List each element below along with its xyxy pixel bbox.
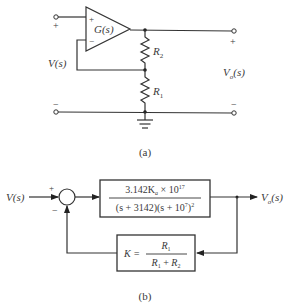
forward-numerator: 3.142Ka × 1017 bbox=[125, 184, 184, 196]
r1-label: R1 bbox=[152, 85, 164, 100]
summing-junction bbox=[59, 189, 75, 205]
caption-b: (b) bbox=[139, 290, 152, 303]
opamp-minus-sign: − bbox=[89, 36, 94, 46]
input-voltage-label: V(s) bbox=[48, 57, 67, 70]
figure-canvas: + + − G(s) + R2 R1 V(s) Vo(s) − − bbox=[0, 0, 294, 306]
bd-input-label: V(s) bbox=[6, 191, 25, 204]
output-plus-sign: + bbox=[230, 36, 236, 47]
sum-plus-sign: + bbox=[49, 183, 54, 193]
output-minus-sign: − bbox=[231, 99, 237, 110]
input-minus-sign: − bbox=[53, 99, 59, 110]
r2-label: R2 bbox=[152, 45, 164, 60]
output-plus-terminal bbox=[232, 29, 236, 33]
sum-minus-sign: − bbox=[52, 205, 58, 216]
output-minus-terminal bbox=[232, 111, 236, 115]
caption-a: (a) bbox=[139, 146, 152, 159]
forward-denominator: (s + 3142)(s + 107)2 bbox=[116, 202, 194, 214]
ground-icon bbox=[137, 112, 153, 128]
bd-output-label: Vo(s) bbox=[261, 191, 283, 206]
feedback-denominator: R1 + R2 bbox=[151, 257, 181, 269]
resistor-r1 bbox=[141, 70, 149, 112]
output-voltage-label: Vo(s) bbox=[223, 66, 245, 81]
input-plus-terminal bbox=[54, 15, 58, 19]
input-minus-terminal bbox=[54, 110, 58, 114]
feedback-lhs: K = bbox=[123, 248, 140, 259]
block-diagram-b: V(s) + − 3.142Ka × 1017 (s + 3142)(s + 1… bbox=[6, 180, 283, 303]
resistor-r2 bbox=[141, 30, 149, 70]
circuit-diagram-a: + + − G(s) + R2 R1 V(s) Vo(s) − − bbox=[48, 7, 245, 159]
opamp-gain-label: G(s) bbox=[94, 23, 114, 36]
input-plus-sign: + bbox=[53, 20, 59, 31]
